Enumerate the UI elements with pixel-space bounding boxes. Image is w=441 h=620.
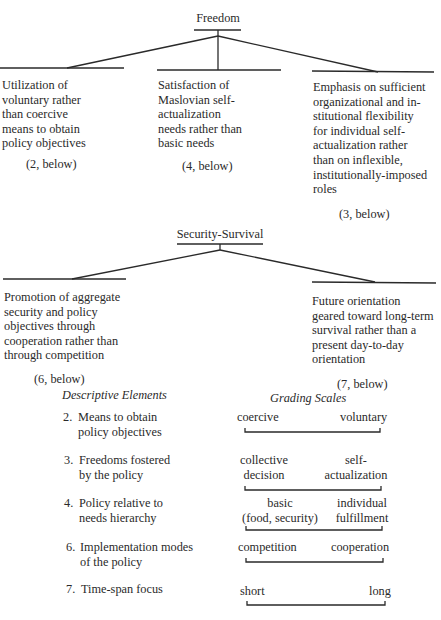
scale-high-cooperation: cooperation — [331, 540, 389, 555]
security-title: Security-Survival — [172, 227, 268, 242]
scale-high-voluntary: voluntary — [340, 410, 387, 425]
grading-scales-header: Grading Scales — [270, 391, 346, 406]
descriptive-element-time-span: Time-span focus — [81, 582, 163, 597]
descriptive-element-implementation: Implementation modes of the policy — [80, 540, 193, 569]
descriptive-element-freedoms: Freedoms fostered by the policy — [79, 453, 170, 482]
scale-low-coercive: coercive — [237, 410, 279, 425]
freedom-title: Freedom — [194, 11, 242, 26]
scale-high-individual-fulfillment: individual fulfillment — [333, 496, 391, 525]
security-branch-cooperation: Promotion of aggregate security and poli… — [4, 290, 120, 363]
freedom-branch-flexibility: Emphasis on sufficient organizational an… — [313, 80, 427, 197]
scale-low-collective-decision: collective decision — [232, 453, 296, 482]
freedom-branch-ref-3: (3, below) — [339, 207, 390, 222]
row-number: 7. — [66, 582, 75, 597]
row-number: 3. — [64, 453, 73, 468]
security-branch-ref-7: (7, below) — [337, 377, 388, 392]
freedom-branch-ref-4: (4, below) — [182, 159, 233, 174]
scale-low-competition: competition — [238, 540, 297, 555]
descriptive-elements-header: Descriptive Elements — [62, 388, 167, 403]
security-branch-ref-6: (6, below) — [34, 372, 85, 387]
descriptive-element-means: Means to obtain policy objectives — [78, 410, 162, 439]
row-number: 4. — [64, 496, 73, 511]
row-number: 2. — [63, 410, 72, 425]
scale-high-long: long — [369, 584, 391, 599]
descriptive-element-needs-hierarchy: Policy relative to needs hierarchy — [79, 496, 163, 525]
security-branch-future-orientation: Future orientation geared toward long-te… — [312, 294, 434, 367]
freedom-branch-maslovian: Satisfaction of Maslovian self- actualiz… — [158, 78, 242, 151]
freedom-branch-voluntary-means: Utilization of voluntary rather than coe… — [2, 78, 86, 151]
scale-high-self-actualization: self- actualization — [322, 453, 390, 482]
row-number: 6. — [66, 540, 75, 555]
scale-low-short: short — [240, 584, 265, 599]
scale-low-basic: basic (food, security) — [237, 496, 323, 525]
freedom-branch-ref-2: (2, below) — [26, 157, 77, 172]
